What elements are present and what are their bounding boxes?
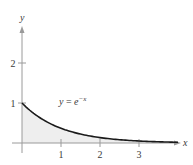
x-axis-label: x [182, 137, 188, 148]
y-tick-label: 1 [11, 98, 16, 109]
x-tick-label: 3 [137, 149, 142, 160]
function-label: y = e−x [58, 95, 87, 107]
x-tick-label: 1 [59, 149, 64, 160]
y-tick-label: 2 [11, 58, 16, 69]
y-ticks: 12 [11, 58, 27, 109]
y-axis-label: y [19, 12, 25, 23]
y-axis-arrow-icon [20, 26, 25, 33]
exponential-decay-chart: 123 12 y x y = e−x [0, 0, 193, 165]
x-tick-label: 2 [98, 149, 103, 160]
